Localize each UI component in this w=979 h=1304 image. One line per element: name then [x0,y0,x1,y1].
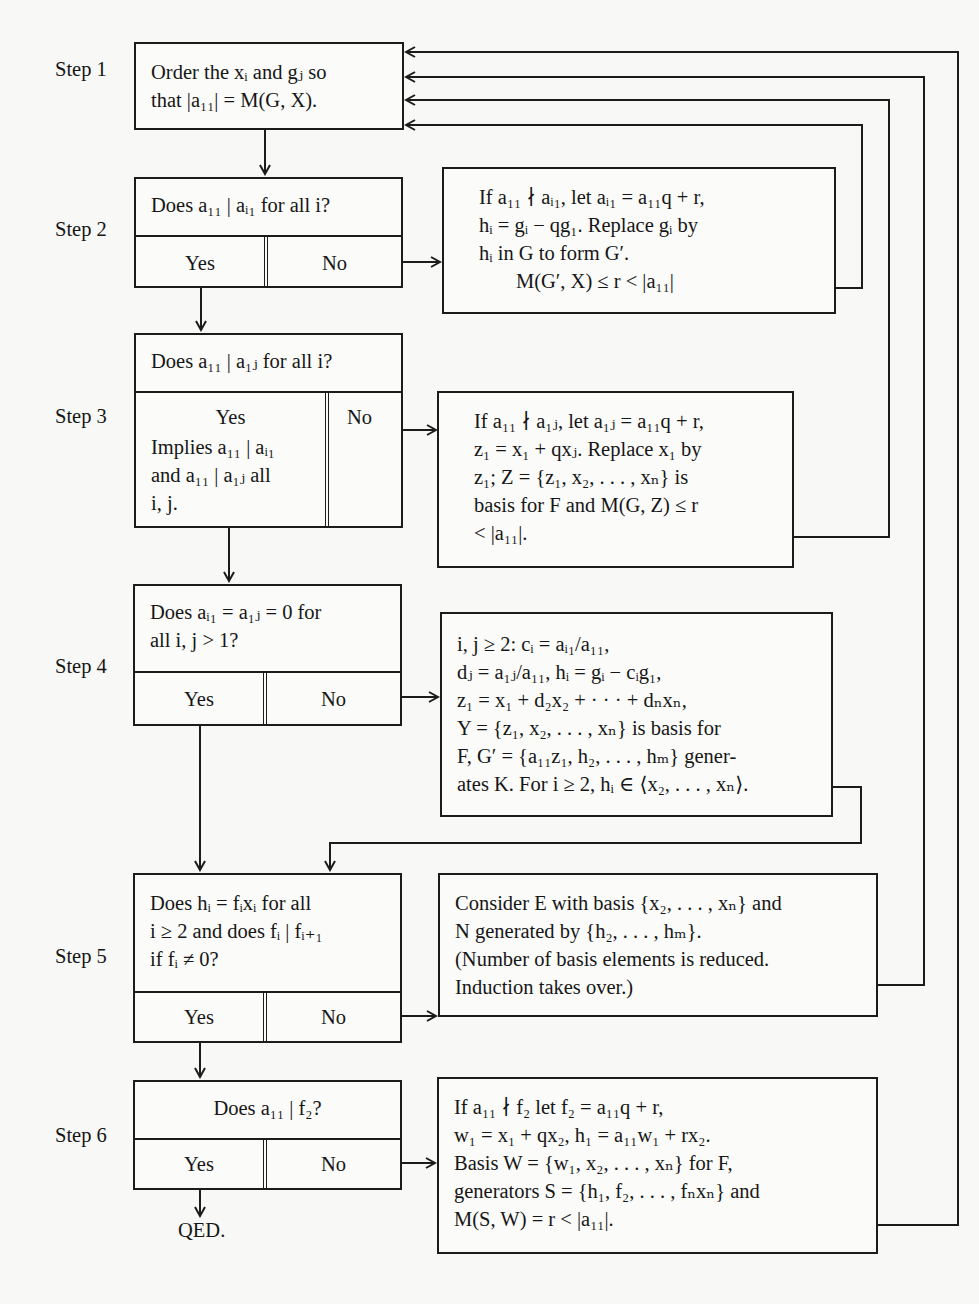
step-6-action-line-5: M(S, W) = r < |a₁₁|. [454,1205,614,1233]
step-6-question: Does a₁₁ | f₂? [135,1094,400,1122]
step-3-no-cell: No [329,391,401,526]
step-4-action-line-1: i, j ≥ 2: cᵢ = aᵢ₁/a₁₁, [457,630,609,658]
step-2-question: Does a₁₁ | aᵢ₁ for all i? [151,191,330,219]
step-3-yes-note-1: Implies a₁₁ | aᵢ₁ [151,433,275,461]
step-2-label: Step 2 [55,218,107,241]
step-3-action-line-2: z₁ = x₁ + qxⱼ. Replace x₁ by [474,435,702,463]
step-4-action-line-4: Y = {z₁, x₂, . . . , xₙ} is basis for [457,714,721,742]
step-4-action-box: i, j ≥ 2: cᵢ = aᵢ₁/a₁₁, dⱼ = a₁ⱼ/a₁₁, hᵢ… [440,612,833,817]
step-4-no-label: No [267,685,400,713]
step-4-yes-cell: Yes [135,671,267,724]
step-6-action-line-2: w₁ = x₁ + qx₂, h₁ = a₁₁w₁ + rx₂. [454,1121,711,1149]
step-6-action-line-3: Basis W = {w₁, x₂, . . . , xₙ} for F, [454,1149,733,1177]
step-2-question-area: Does a₁₁ | aᵢ₁ for all i? [136,179,401,237]
step-3-yes-label: Yes [136,403,325,431]
step-6-label: Step 6 [55,1124,107,1147]
step-2-no-label: No [268,249,401,277]
step-4-question-line-1: Does aᵢ₁ = a₁ⱼ = 0 for [150,598,321,626]
qed-terminal: QED. [178,1216,225,1244]
step-2-action-line-4: M(G′, X) ≤ r < |a₁₁| [516,267,674,295]
step-6-question-area: Does a₁₁ | f₂? [135,1082,400,1140]
step-6-no-cell: No [267,1138,400,1188]
flowchart-page: Step 1 Step 2 Step 3 Step 4 Step 5 Step … [0,0,979,1304]
step-3-yes-note-2: and a₁₁ | a₁ⱼ all [151,461,271,489]
step-4-yes-label: Yes [135,685,263,713]
step-3-no-label: No [347,403,372,431]
step-6-action-line-1: If a₁₁ ∤ f₂ let f₂ = a₁₁q + r, [454,1093,663,1121]
step-5-action-box: Consider E with basis {x₂, . . . , xₙ} a… [438,873,878,1017]
step-2-action-line-3: hᵢ in G to form G′. [479,239,629,267]
step-6-action-box: If a₁₁ ∤ f₂ let f₂ = a₁₁q + r, w₁ = x₁ +… [437,1077,878,1254]
step-2-action-line-2: hᵢ = gᵢ − qg₁. Replace gᵢ by [479,211,698,239]
step-5-question-area: Does hᵢ = fᵢxᵢ for all i ≥ 2 and does fᵢ… [135,875,400,993]
step-4-question-line-2: all i, j > 1? [150,626,238,654]
step-5-decision-box: Does hᵢ = fᵢxᵢ for all i ≥ 2 and does fᵢ… [133,873,402,1043]
step-4-action-line-3: z₁ = x₁ + d₂x₂ + · · · + dₙxₙ, [457,686,687,714]
step-6-yes-cell: Yes [135,1138,267,1188]
step-3-decision-box: Does a₁₁ | a₁ⱼ for all i? Yes Implies a₁… [134,333,403,528]
step-2-yes-label: Yes [136,249,264,277]
step-5-no-label: No [267,1003,400,1031]
step-5-question-line-3: if fᵢ ≠ 0? [150,945,219,973]
step-3-question: Does a₁₁ | a₁ⱼ for all i? [151,347,332,375]
step-5-question-line-2: i ≥ 2 and does fᵢ | fᵢ₊₁ [150,917,323,945]
step-4-decision-box: Does aᵢ₁ = a₁ⱼ = 0 for all i, j > 1? Yes… [133,584,402,726]
step-5-yes-label: Yes [135,1003,263,1031]
step-6-decision-box: Does a₁₁ | f₂? Yes No [133,1080,402,1190]
step-5-label: Step 5 [55,945,107,968]
step-4-no-cell: No [267,671,400,724]
step-2-decision-box: Does a₁₁ | aᵢ₁ for all i? Yes No [134,177,403,288]
step-2-yes-cell: Yes [136,235,268,286]
step-1-line-2: that |a₁₁| = M(G, X). [151,86,317,114]
step-3-yes-cell: Yes Implies a₁₁ | aᵢ₁ and a₁₁ | a₁ⱼ all … [136,391,329,526]
step-1-box: Order the xᵢ and gⱼ so that |a₁₁| = M(G,… [134,42,404,130]
step-3-label: Step 3 [55,405,107,428]
step-3-action-line-4: basis for F and M(G, Z) ≤ r [474,491,698,519]
step-2-action-box: If a₁₁ ∤ aᵢ₁, let aᵢ₁ = a₁₁q + r, hᵢ = g… [442,167,836,314]
step-3-question-area: Does a₁₁ | a₁ⱼ for all i? [136,335,401,393]
step-1-line-1: Order the xᵢ and gⱼ so [151,58,327,86]
step-5-action-line-4: Induction takes over.) [455,973,633,1001]
step-5-action-line-2: N generated by {h₂, . . . , hₘ}. [455,917,702,945]
step-3-action-box: If a₁₁ ∤ a₁ⱼ, let a₁ⱼ = a₁₁q + r, z₁ = x… [437,391,794,568]
step-5-yes-cell: Yes [135,991,267,1041]
step-1-label: Step 1 [55,58,107,81]
step-5-action-line-3: (Number of basis elements is reduced. [455,945,769,973]
step-4-question-area: Does aᵢ₁ = a₁ⱼ = 0 for all i, j > 1? [135,586,400,673]
step-5-no-cell: No [267,991,400,1041]
step-2-action-line-1: If a₁₁ ∤ aᵢ₁, let aᵢ₁ = a₁₁q + r, [479,183,705,211]
step-3-action-line-3: z₁; Z = {z₁, x₂, . . . , xₙ} is [474,463,688,491]
step-4-label: Step 4 [55,655,107,678]
step-3-action-line-1: If a₁₁ ∤ a₁ⱼ, let a₁ⱼ = a₁₁q + r, [474,407,704,435]
step-6-no-label: No [267,1150,400,1178]
step-6-yes-label: Yes [135,1150,263,1178]
step-4-action-line-5: F, G′ = {a₁₁z₁, h₂, . . . , hₘ} gener- [457,742,736,770]
step-4-action-line-2: dⱼ = a₁ⱼ/a₁₁, hᵢ = gᵢ − cᵢg₁, [457,658,661,686]
step-2-no-cell: No [268,235,401,286]
step-3-yes-note-3: i, j. [151,489,178,517]
step-5-action-line-1: Consider E with basis {x₂, . . . , xₙ} a… [455,889,782,917]
step-4-action-line-6: ates K. For i ≥ 2, hᵢ ∈ ⟨x₂, . . . , xₙ⟩… [457,770,748,798]
step-3-action-line-5: < |a₁₁|. [474,519,527,547]
step-6-action-line-4: generators S = {h₁, f₂, . . . , fₙxₙ} an… [454,1177,760,1205]
step-5-question-line-1: Does hᵢ = fᵢxᵢ for all [150,889,311,917]
